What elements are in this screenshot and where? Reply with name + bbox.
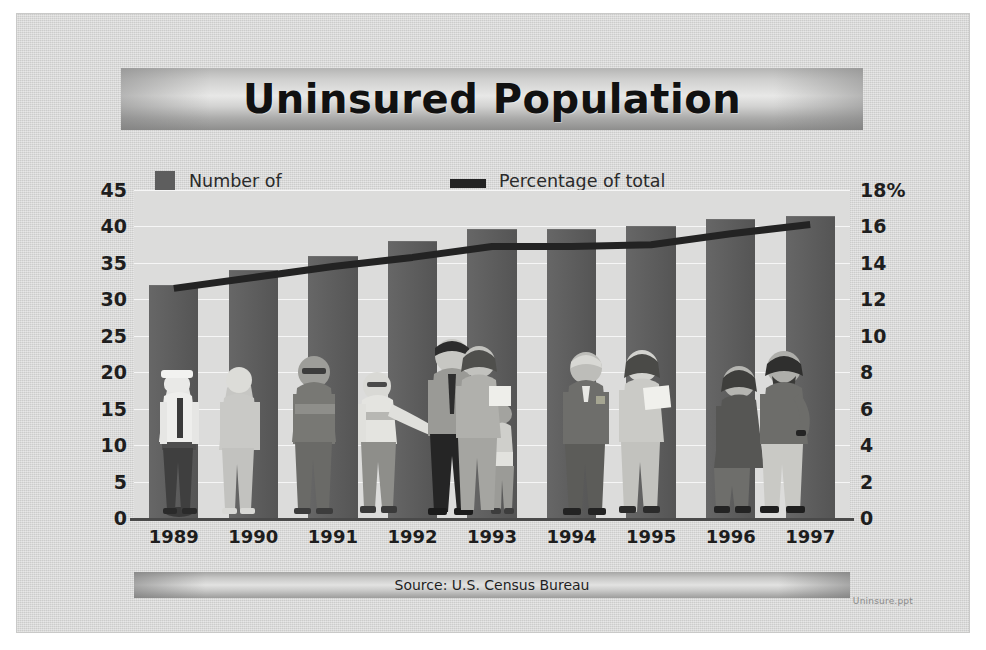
y-axis-right-tick: 16 <box>860 217 886 236</box>
y-axis-right-tick: 4 <box>860 436 873 455</box>
y-axis-left-tick: 10 <box>101 436 127 455</box>
y-axis-left-tick: 30 <box>101 290 127 309</box>
y-axis-right-tick: 2 <box>860 472 873 491</box>
y-axis-right-tick: 12 <box>860 290 886 309</box>
slide-canvas: Uninsured Population Number of uninsured… <box>17 14 969 632</box>
x-axis-tick-1997: 1997 <box>771 526 851 556</box>
y-axis-right: 18%1614121086420 <box>860 190 920 518</box>
file-watermark: Uninsure.ppt <box>853 596 913 606</box>
x-axis-line <box>130 518 854 521</box>
people-illustration <box>134 190 850 518</box>
x-axis-tick-1992: 1992 <box>373 526 453 556</box>
x-axis-tick-1991: 1991 <box>293 526 373 556</box>
x-axis-tick-1996: 1996 <box>691 526 771 556</box>
y-axis-right-tick: 18% <box>860 181 905 200</box>
x-axis-tick-1995: 1995 <box>611 526 691 556</box>
x-axis-tick-1993: 1993 <box>452 526 532 556</box>
y-axis-right-tick: 10 <box>860 326 886 345</box>
x-axis-tick-1994: 1994 <box>532 526 612 556</box>
y-axis-left-tick: 25 <box>101 326 127 345</box>
source-banner: Source: U.S. Census Bureau <box>134 572 850 598</box>
y-axis-left-tick: 45 <box>101 181 127 200</box>
source-text: Source: U.S. Census Bureau <box>395 577 590 593</box>
title-banner: Uninsured Population <box>121 68 863 130</box>
people-silhouettes <box>134 190 850 518</box>
y-axis-left-tick: 5 <box>114 472 127 491</box>
y-axis-left: 454035302520151050 <box>75 190 127 518</box>
y-axis-right-tick: 0 <box>860 509 873 528</box>
y-axis-left-tick: 0 <box>114 509 127 528</box>
y-axis-right-tick: 8 <box>860 363 873 382</box>
line-swatch-icon <box>450 179 486 188</box>
x-axis-tick-1989: 1989 <box>134 526 214 556</box>
y-axis-right-tick: 6 <box>860 399 873 418</box>
y-axis-left-tick: 40 <box>101 217 127 236</box>
y-axis-left-tick: 15 <box>101 399 127 418</box>
x-axis: 198919901991199219931994199519961997 <box>134 526 850 556</box>
page-title: Uninsured Population <box>243 76 741 122</box>
y-axis-left-tick: 20 <box>101 363 127 382</box>
y-axis-right-tick: 14 <box>860 253 886 272</box>
y-axis-left-tick: 35 <box>101 253 127 272</box>
x-axis-tick-1990: 1990 <box>214 526 294 556</box>
